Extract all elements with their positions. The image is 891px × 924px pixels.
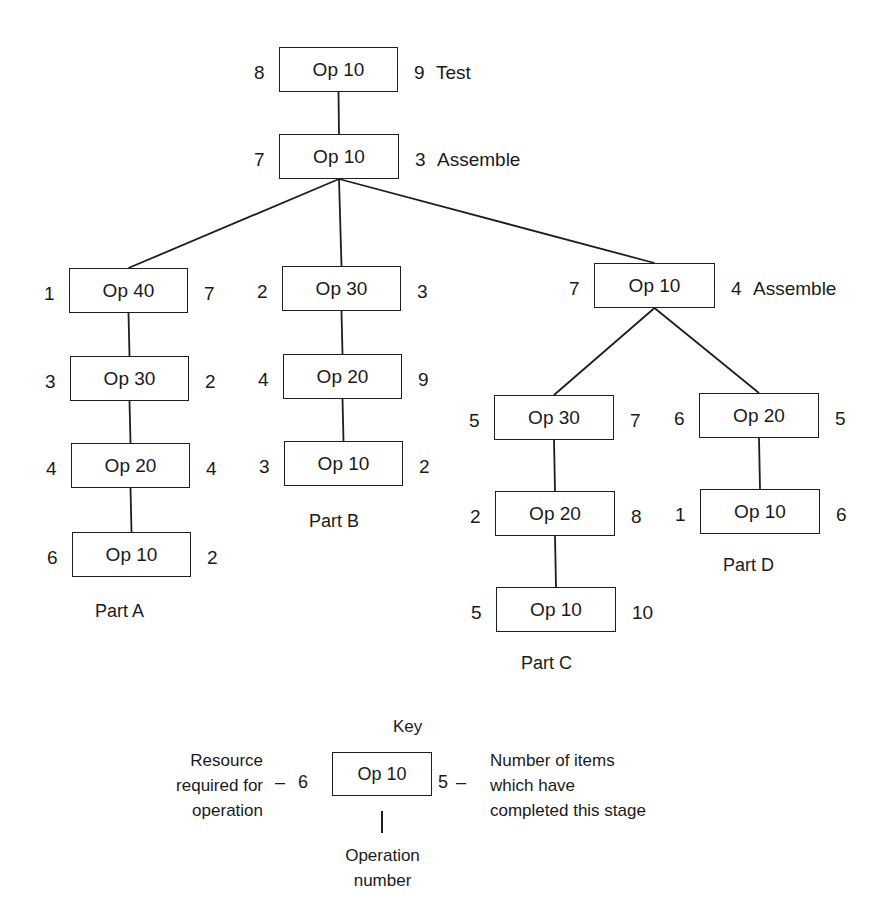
resource-value: 7	[569, 279, 580, 298]
completed-count: 8	[631, 507, 642, 526]
resource-value: 1	[675, 505, 686, 524]
completed-count: 2	[207, 548, 218, 567]
completed-count: 3	[415, 150, 426, 169]
operation-node-a-op40: Op 40	[69, 268, 188, 313]
legend-operation-number-label: Operation number	[330, 843, 435, 893]
completed-count: 10	[632, 603, 653, 622]
connector-line	[131, 488, 132, 532]
connector-line	[342, 311, 343, 354]
connector-line	[655, 308, 760, 393]
operation-node-b-op10: Op 10	[284, 441, 403, 486]
operation-node-top-assemble: Op 10	[279, 134, 399, 179]
part-label: Part D	[723, 556, 774, 574]
operation-node-a-op30: Op 30	[70, 356, 189, 401]
connector-line	[339, 92, 340, 134]
completed-count: 3	[417, 282, 428, 301]
resource-value: 3	[259, 457, 270, 476]
operation-node-a-op20: Op 20	[71, 443, 190, 488]
completed-count: 4	[206, 459, 217, 478]
resource-value: 2	[470, 507, 481, 526]
operation-node-a-op10: Op 10	[72, 532, 191, 577]
operation-node-d-op20: Op 20	[699, 393, 819, 438]
legend-resource-value: 6	[298, 773, 308, 791]
completed-count: 4	[731, 279, 742, 298]
connector-line	[343, 399, 344, 441]
legend-completed-dash: –	[456, 773, 466, 791]
legend-completed-value: 5	[438, 773, 448, 791]
operation-node-c-op20: Op 20	[495, 491, 615, 536]
part-label: Part A	[95, 602, 144, 620]
operation-node-b-op20: Op 20	[283, 354, 402, 399]
resource-value: 6	[674, 409, 685, 428]
completed-count: 7	[204, 284, 215, 303]
completed-count: 2	[419, 457, 430, 476]
connector-line	[555, 536, 556, 587]
resource-value: 6	[47, 548, 58, 567]
legend-completed-label: Number of items which have completed thi…	[490, 748, 646, 823]
operation-node-b-op30: Op 30	[282, 266, 401, 311]
connector-line	[130, 401, 131, 443]
legend-title: Key	[393, 718, 422, 735]
part-label: Part B	[309, 512, 359, 530]
connector-line	[554, 308, 655, 395]
resource-value: 7	[254, 150, 265, 169]
connector-line	[554, 440, 555, 491]
operation-note: Assemble	[437, 150, 520, 169]
connector-line	[339, 179, 342, 266]
operations-tree-diagram: Op 1089TestOp 1073AssembleOp 4017Op 3032…	[0, 0, 891, 924]
legend-operation-box: Op 10	[332, 752, 432, 796]
connector-line	[339, 179, 655, 263]
operation-node-d-op10: Op 10	[700, 489, 820, 534]
operation-node-top-test: Op 10	[279, 47, 398, 92]
operation-note: Test	[436, 63, 471, 82]
operation-node-c-op30: Op 30	[494, 395, 614, 440]
connector-line	[129, 313, 130, 356]
legend-resource-dash: –	[275, 773, 285, 791]
completed-count: 9	[418, 370, 429, 389]
resource-value: 3	[45, 372, 56, 391]
operation-note: Assemble	[753, 279, 836, 298]
resource-value: 5	[469, 411, 480, 430]
connector-line	[129, 179, 340, 268]
resource-value: 4	[46, 459, 57, 478]
completed-count: 7	[630, 411, 641, 430]
resource-value: 1	[44, 284, 55, 303]
completed-count: 2	[205, 372, 216, 391]
resource-value: 8	[254, 63, 265, 82]
resource-value: 4	[258, 370, 269, 389]
resource-value: 2	[257, 282, 268, 301]
connector-line	[759, 438, 760, 489]
operation-node-c-op10: Op 10	[496, 587, 616, 632]
resource-value: 5	[471, 603, 482, 622]
part-label: Part C	[521, 654, 572, 672]
operation-node-cd-assemble: Op 10	[594, 263, 715, 308]
legend-resource-label: Resource required for operation	[155, 748, 263, 823]
completed-count: 9	[414, 63, 425, 82]
legend-pointer-line	[381, 811, 383, 833]
completed-count: 5	[835, 409, 846, 428]
completed-count: 6	[836, 505, 847, 524]
